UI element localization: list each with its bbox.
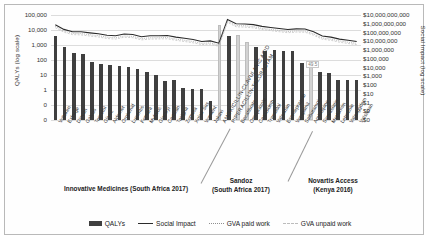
data-annotation: 49.5 [306, 61, 319, 68]
y-tick-label-left: 0 [5, 101, 47, 109]
y-tick-label-left: 100 [5, 56, 47, 64]
y-tick-label-left: 1,000 [5, 41, 47, 49]
y-tick-label-left: 10 [5, 71, 47, 79]
y-tick-label-right: $100 [363, 81, 377, 89]
x-axis-labels: VoltarenExforgeDiovanGalvusTegretolGlive… [51, 121, 361, 173]
y-tick-label-left: 10,000 [5, 26, 47, 34]
y-tick-label-right: $1,000,000,000 [363, 20, 406, 28]
y-tick-label-right: $100,000,000 [363, 29, 401, 37]
chart-frame: QALYs (log scale) 100,00010,0001,0001001… [4, 4, 424, 235]
legend-item[interactable]: Social Impact [138, 220, 196, 227]
y-tick-label-left: 1 [5, 86, 47, 94]
solid-line-swatch-icon [138, 223, 153, 224]
legend-item[interactable]: QALYs [89, 220, 125, 227]
y-tick-label-right: $10,000,000 [363, 37, 397, 45]
y-tick-label-left: 100,000 [5, 11, 47, 19]
group-label-line1: Innovative Medicines (South Africa 2017) [51, 185, 201, 194]
group-label: Innovative Medicines (South Africa 2017) [51, 185, 201, 194]
y-axis-right-title: Social Impact (log scale) [420, 26, 427, 96]
legend-label: QALYs [105, 220, 125, 227]
dashed-line-swatch-icon [283, 223, 298, 224]
legend-label: GVA unpaid work [301, 220, 351, 227]
chart-legend: QALYsSocial ImpactGVA paid workGVA unpai… [5, 220, 430, 227]
legend-label: Social Impact [156, 220, 196, 227]
legend-item[interactable]: GVA paid work [209, 220, 270, 227]
y-tick-label-right: $1,000 [363, 72, 382, 80]
y-tick-label-right: $1,000,000 [363, 46, 394, 54]
dotted-line-swatch-icon [209, 223, 224, 224]
group-label-line2: (South Africa 2017) [201, 186, 281, 195]
group-label-line1: Novartis Access [293, 177, 373, 186]
y-tick-label-right: $10,000,000,000 [363, 11, 409, 19]
group-label: Novartis Access(Kenya 2016) [293, 177, 373, 194]
bar-swatch-icon [89, 221, 102, 226]
group-label-line2: (Kenya 2016) [293, 186, 373, 195]
legend-label: GVA paid work [227, 220, 270, 227]
y-tick-label-left: 0 [5, 116, 47, 124]
line-social-impact [55, 20, 356, 44]
y-tick-label-right: $10,000 [363, 64, 385, 72]
group-label: Sandoz(South Africa 2017) [201, 177, 281, 194]
group-label-line1: Sandoz [201, 177, 281, 186]
legend-item[interactable]: GVA unpaid work [283, 220, 351, 227]
y-tick-label-right: $100,000 [363, 55, 389, 63]
